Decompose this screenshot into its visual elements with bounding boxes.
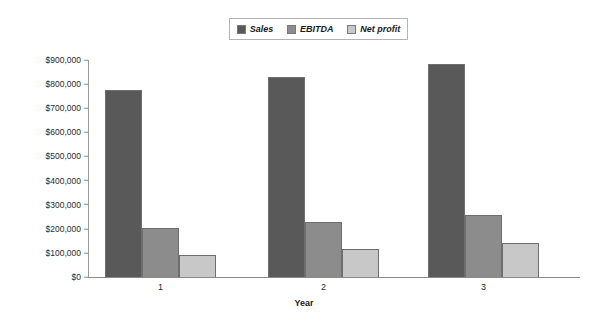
y-axis-tick-label: $200,000 — [46, 225, 81, 234]
bar-group-year-3 — [428, 60, 539, 277]
legend-label-net-profit: Net profit — [360, 25, 400, 34]
legend-label-ebitda: EBITDA — [300, 25, 334, 34]
y-axis-tick: $0 — [72, 273, 88, 282]
x-axis-tick-label: 3 — [481, 283, 486, 292]
legend-label-sales: Sales — [250, 25, 274, 34]
y-axis-tick-label: $400,000 — [46, 176, 81, 185]
y-axis-tick-mark — [84, 228, 88, 229]
legend-item-sales: Sales — [235, 25, 276, 34]
y-axis-tick-mark — [84, 108, 88, 109]
y-axis-tick: $200,000 — [46, 225, 88, 234]
y-axis-tick-label: $800,000 — [46, 80, 81, 89]
bar-ebitda-year-3[interactable] — [465, 215, 502, 277]
y-axis-tick-mark — [84, 60, 88, 61]
x-axis-line — [88, 277, 580, 278]
y-axis-tick: $400,000 — [46, 176, 88, 185]
y-axis-tick: $600,000 — [46, 128, 88, 137]
y-axis-tick-label: $300,000 — [46, 200, 81, 209]
legend-swatch-net-profit — [347, 25, 356, 34]
x-axis-title: Year — [0, 299, 608, 308]
x-axis-tick-label: 2 — [321, 283, 326, 292]
y-axis-tick-mark — [84, 252, 88, 253]
bar-ebitda-year-1[interactable] — [142, 228, 179, 277]
legend-item-net-profit: Net profit — [345, 25, 402, 34]
legend-swatch-ebitda — [287, 25, 296, 34]
chart-legend: Sales EBITDA Net profit — [229, 18, 408, 40]
bar-net-profit-year-3[interactable] — [502, 243, 539, 277]
bar-group-year-2 — [268, 60, 379, 277]
y-axis-tick-mark — [84, 204, 88, 205]
legend-item-ebitda: EBITDA — [285, 25, 336, 34]
y-axis-tick-label: $700,000 — [46, 104, 81, 113]
y-axis-tick-label: $600,000 — [46, 128, 81, 137]
bar-sales-year-1[interactable] — [105, 90, 142, 277]
bar-sales-year-3[interactable] — [428, 64, 465, 277]
plot-area: $900,000$800,000$700,000$600,000$500,000… — [88, 60, 578, 277]
bar-sales-year-2[interactable] — [268, 77, 305, 277]
bar-ebitda-year-2[interactable] — [305, 222, 342, 277]
y-axis-tick: $300,000 — [46, 200, 88, 209]
y-axis-tick: $900,000 — [46, 56, 88, 65]
y-axis-tick: $500,000 — [46, 152, 88, 161]
y-axis-tick-mark — [84, 277, 88, 278]
legend-swatch-sales — [237, 25, 246, 34]
y-axis-tick: $800,000 — [46, 80, 88, 89]
x-axis-tick-label: 1 — [158, 283, 163, 292]
bar-chart: Sales EBITDA Net profit $900,000$800,000… — [0, 0, 608, 326]
y-axis-tick: $700,000 — [46, 104, 88, 113]
bar-net-profit-year-2[interactable] — [342, 249, 379, 277]
bar-group-year-1 — [105, 60, 216, 277]
y-axis-tick-label: $0 — [72, 273, 81, 282]
y-axis-tick-label: $900,000 — [46, 56, 81, 65]
y-axis-tick-mark — [84, 132, 88, 133]
y-axis-tick-label: $100,000 — [46, 249, 81, 258]
y-axis-tick-label: $500,000 — [46, 152, 81, 161]
y-axis-tick-mark — [84, 180, 88, 181]
bar-net-profit-year-1[interactable] — [179, 255, 216, 277]
y-axis-tick-mark — [84, 84, 88, 85]
y-axis-tick-mark — [84, 156, 88, 157]
y-axis-tick: $100,000 — [46, 249, 88, 258]
